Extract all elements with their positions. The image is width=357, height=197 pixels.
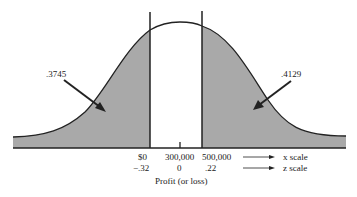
z-scale-label: z scale [283, 164, 307, 173]
x-scale-arrow-head [269, 155, 275, 159]
z-tick-22: .22 [205, 164, 216, 173]
normal-curve [13, 22, 346, 137]
z-scale-arrow-head [269, 166, 275, 170]
right-shaded-area [202, 26, 346, 148]
z-tick-zero: 0 [177, 164, 182, 173]
z-tick-neg32: −.32 [133, 164, 149, 173]
x-tick-zero: $0 [138, 153, 147, 162]
right-area-label: .4129 [281, 70, 301, 79]
x-tick-300k: 300,000 [165, 153, 194, 162]
x-scale-label: x scale [283, 153, 308, 162]
left-area-label: .3745 [46, 70, 66, 79]
left-shaded-area [13, 30, 150, 148]
x-tick-500k: 500,000 [202, 153, 231, 162]
left-arrow-line [64, 80, 100, 107]
axis-title: Profit (or loss) [155, 177, 208, 186]
